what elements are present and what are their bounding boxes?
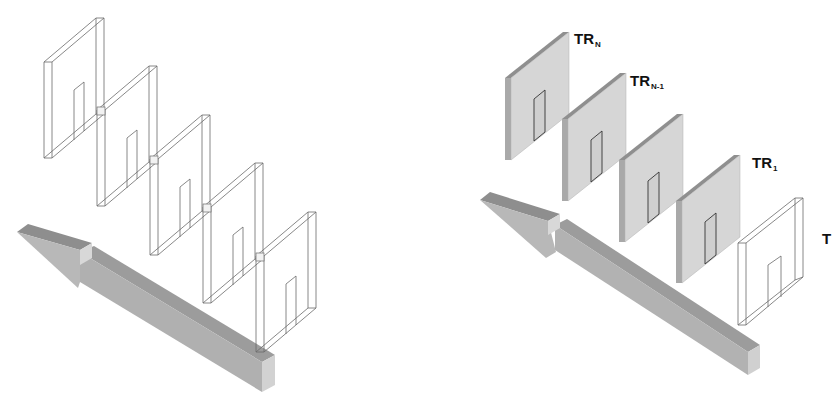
left-frame-2 <box>97 66 157 206</box>
label-t: T <box>822 230 831 247</box>
left-frame-5 <box>256 212 316 352</box>
panel-tr-n <box>505 32 569 160</box>
label-tr-n-sub: N <box>595 40 601 49</box>
label-tr-1: TR1 <box>752 154 777 173</box>
panel-tr-mid <box>619 114 683 242</box>
label-t-main: T <box>822 230 831 247</box>
left-arrow-icon <box>17 224 275 392</box>
left-frame-3 <box>150 115 210 255</box>
panel-tr-1 <box>676 155 740 283</box>
panel-t <box>738 198 803 325</box>
label-tr-n-1: TRN-1 <box>630 72 664 91</box>
panel-tr-n-1 <box>562 73 626 201</box>
left-frame-1 <box>44 18 104 158</box>
label-tr-n: TRN <box>574 30 601 49</box>
left-diagram <box>17 18 316 392</box>
label-tr-n-1-sub: N-1 <box>651 82 664 91</box>
label-tr-1-sub: 1 <box>773 164 777 173</box>
left-frame-4 <box>203 163 263 303</box>
label-tr-1-main: TR <box>752 154 772 171</box>
diagram-canvas <box>0 0 833 420</box>
label-tr-n-main: TR <box>574 30 594 47</box>
label-tr-n-1-main: TR <box>630 72 650 89</box>
